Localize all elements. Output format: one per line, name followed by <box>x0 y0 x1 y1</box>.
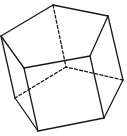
edge-FJ-hidden <box>15 67 66 98</box>
edge-HG <box>104 80 123 118</box>
edge-EA <box>1 5 53 36</box>
edge-BC <box>90 16 108 56</box>
pentagonal-prism-diagram <box>0 0 127 136</box>
edge-IH <box>38 118 104 131</box>
edge-AB <box>53 5 108 16</box>
edge-CH <box>90 56 104 118</box>
edge-BG <box>108 16 123 80</box>
edge-CD <box>24 56 90 68</box>
edge-AF-hidden <box>53 5 66 67</box>
